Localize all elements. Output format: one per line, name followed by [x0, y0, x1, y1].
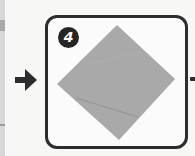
paper-diamond [57, 25, 175, 140]
right-arrow-icon-partial [190, 77, 195, 81]
folded-paper-diagram [0, 0, 195, 156]
